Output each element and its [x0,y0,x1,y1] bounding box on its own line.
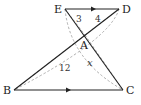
parallel-arrow-ED [91,7,96,12]
label-C: C [126,84,134,97]
segment-label-BA: 12 [59,63,70,73]
label-E: E [54,3,62,16]
geometry-diagram: E D A B C 3 4 12 x [0,0,141,105]
label-D: D [122,3,131,16]
segment-label-AC: x [87,57,93,68]
solid-segments [14,9,123,90]
label-B: B [3,84,11,97]
segment-label-DA: 4 [95,14,101,24]
segment-label-EA: 3 [76,14,82,24]
segment-DB [14,9,119,90]
label-A: A [79,39,89,52]
segment-EC [65,9,123,90]
parallel-arrow-BC [66,88,71,93]
